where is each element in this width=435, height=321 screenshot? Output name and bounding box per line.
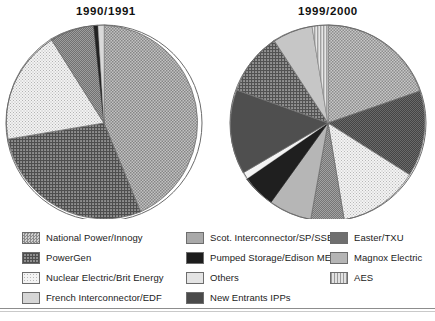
legend-item-nuclear-electric[interactable]: Nuclear Electric/Brit Energy bbox=[22, 268, 198, 287]
legend-item-national-power[interactable]: National Power/Innogy bbox=[22, 228, 198, 247]
pie-slices-right bbox=[230, 25, 425, 219]
legend-label-others: Others bbox=[210, 272, 239, 283]
legend-item-pumped-storage[interactable]: Pumped Storage/Edison ME bbox=[186, 248, 334, 267]
legend-label-pumped-storage: Pumped Storage/Edison ME bbox=[210, 252, 331, 263]
legend-swatch-pumped-storage bbox=[186, 252, 204, 264]
legend-label-nuclear-electric: Nuclear Electric/Brit Energy bbox=[46, 272, 164, 283]
legend-item-new-entrants[interactable]: New Entrants IPPs bbox=[186, 288, 334, 307]
legend-item-powergen[interactable]: PowerGen bbox=[22, 248, 198, 267]
legend-swatch-magnox-electric bbox=[330, 252, 348, 264]
chart-title-right: 1999/2000 bbox=[224, 0, 432, 19]
pie-wrap-right bbox=[224, 19, 432, 219]
legend: National Power/Innogy PowerGen Nuclear E… bbox=[0, 228, 435, 304]
legend-item-easter-txu[interactable]: Easter/TXU bbox=[330, 228, 435, 247]
legend-column-3: Easter/TXU Magnox Electric AES bbox=[330, 228, 435, 288]
legend-column-2: Scot. Interconnector/SP/SSE Pumped Stora… bbox=[186, 228, 334, 308]
legend-swatch-national-power bbox=[22, 232, 40, 244]
legend-swatch-others bbox=[186, 272, 204, 284]
legend-swatch-french-interconnector bbox=[22, 292, 40, 304]
legend-item-scot-interconnector[interactable]: Scot. Interconnector/SP/SSE bbox=[186, 228, 334, 247]
legend-item-others[interactable]: Others bbox=[186, 268, 334, 287]
legend-label-magnox-electric: Magnox Electric bbox=[354, 252, 422, 263]
legend-item-aes[interactable]: AES bbox=[330, 268, 435, 287]
legend-item-magnox-electric[interactable]: Magnox Electric bbox=[330, 248, 435, 267]
chart-1999-2000: 1999/2000 bbox=[224, 0, 432, 219]
legend-label-aes: AES bbox=[354, 272, 373, 283]
charts-row: 1990/1991 bbox=[0, 0, 435, 222]
pie-chart-left bbox=[4, 19, 208, 219]
legend-swatch-nuclear-electric bbox=[22, 272, 40, 284]
legend-label-national-power: National Power/Innogy bbox=[46, 232, 143, 243]
legend-swatch-aes bbox=[330, 272, 348, 284]
legend-swatch-powergen bbox=[22, 252, 40, 264]
legend-label-french-interconnector: French Interconnector/EDF bbox=[46, 292, 162, 303]
legend-column-1: National Power/Innogy PowerGen Nuclear E… bbox=[22, 228, 198, 308]
legend-item-french-interconnector[interactable]: French Interconnector/EDF bbox=[22, 288, 198, 307]
bottom-divider bbox=[0, 308, 435, 312]
legend-swatch-easter-txu bbox=[330, 232, 348, 244]
legend-label-easter-txu: Easter/TXU bbox=[354, 232, 404, 243]
chart-title-left: 1990/1991 bbox=[4, 0, 208, 19]
chart-1990-1991: 1990/1991 bbox=[4, 0, 208, 219]
legend-swatch-new-entrants bbox=[186, 292, 204, 304]
legend-swatch-scot-interconnector bbox=[186, 232, 204, 244]
pie-wrap-left bbox=[4, 19, 208, 219]
legend-label-powergen: PowerGen bbox=[46, 252, 91, 263]
legend-label-new-entrants: New Entrants IPPs bbox=[210, 292, 291, 303]
legend-label-scot-interconnector: Scot. Interconnector/SP/SSE bbox=[210, 232, 333, 243]
pie-chart-right bbox=[224, 19, 432, 219]
